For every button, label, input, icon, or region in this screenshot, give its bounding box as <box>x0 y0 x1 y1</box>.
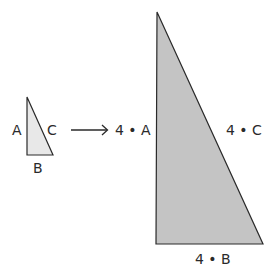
large-label-a: 4 • A <box>115 122 151 138</box>
small-label-b: B <box>33 160 43 176</box>
large-label-c: 4 • C <box>226 122 262 138</box>
arrow-right-icon <box>71 125 108 135</box>
small-label-a: A <box>12 122 22 138</box>
small-label-c: C <box>47 122 57 138</box>
scaling-diagram: A B C 4 • A 4 • B 4 • C <box>0 0 272 273</box>
large-label-b: 4 • B <box>195 251 231 267</box>
